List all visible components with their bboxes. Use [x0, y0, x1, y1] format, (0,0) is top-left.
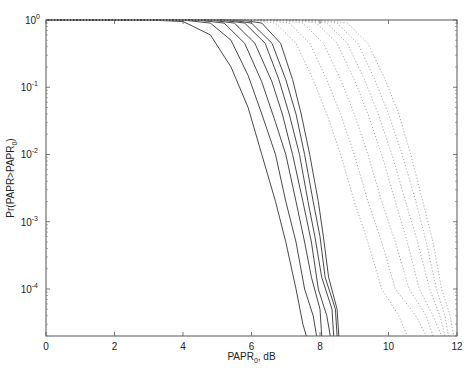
y-tick-label: 10-3	[21, 215, 38, 228]
series-line-solid-7	[46, 20, 339, 336]
series-line-solid-1	[46, 20, 306, 336]
x-tick-label: 4	[180, 341, 186, 352]
y-tick-label: 10-4	[21, 282, 38, 295]
series-line-dotted-3	[46, 20, 433, 336]
x-tick-label: 10	[383, 341, 395, 352]
x-tick-label: 12	[451, 341, 463, 352]
x-tick-label: 2	[112, 341, 118, 352]
y-tick-label: 10-2	[21, 147, 38, 160]
series-line-solid-6	[46, 20, 337, 336]
y-axis: 10010-110-210-310-4	[21, 13, 457, 336]
x-axis-label: PAPR0, dB	[227, 351, 276, 364]
x-axis: 024681012	[43, 20, 463, 352]
series-layer	[46, 20, 454, 336]
x-tick-label: 0	[43, 341, 49, 352]
series-line-dotted-2	[46, 20, 426, 336]
series-line-dotted-7	[46, 20, 454, 336]
y-axis-label: Pr(PAPR>PAPR0)	[5, 138, 18, 217]
series-line-dotted-5	[46, 20, 445, 336]
papr-ccdf-chart: 024681012 10010-110-210-310-4 PAPR0, dB …	[0, 0, 475, 373]
y-tick-label: 10-1	[21, 80, 38, 93]
series-line-solid-4	[46, 20, 330, 336]
x-tick-label: 8	[317, 341, 323, 352]
series-line-dotted-1	[46, 20, 407, 336]
y-tick-label: 100	[25, 13, 40, 26]
series-line-dotted-6	[46, 20, 448, 336]
series-line-solid-2	[46, 20, 317, 336]
